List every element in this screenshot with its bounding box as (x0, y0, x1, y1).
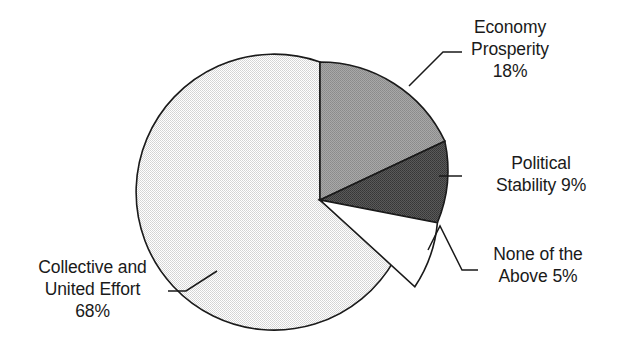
pie-label-line: Collective and (5, 256, 180, 278)
pie-label-political-stability: Political Stability 9% (466, 152, 616, 196)
pie-label-value: 18% (415, 60, 605, 82)
pie-label-value: 68% (5, 300, 180, 322)
pie-label-line: Economy (415, 16, 605, 38)
pie-label-value: Stability 9% (466, 174, 616, 196)
pie-label-line: United Effort (5, 278, 180, 300)
pie-label-economy-prosperity: Economy Prosperity 18% (415, 16, 605, 82)
pie-chart-figure: Economy Prosperity 18% Political Stabili… (0, 0, 618, 359)
pie-label-value: Above 5% (462, 265, 614, 287)
pie-label-none-of-the-above: None of the Above 5% (462, 243, 614, 287)
pie-label-collective-and-united-effort: Collective and United Effort 68% (5, 256, 180, 322)
pie-label-line: Prosperity (415, 38, 605, 60)
pie-label-line: Political (466, 152, 616, 174)
pie-label-line: None of the (462, 243, 614, 265)
